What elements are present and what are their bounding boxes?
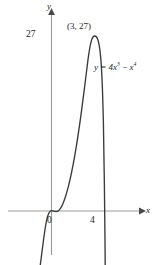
- x-axis-label: x: [146, 206, 150, 215]
- maximum-point-label: (3, 27): [67, 22, 91, 31]
- curve-equation-label: y = 4x3 − x4: [94, 62, 136, 72]
- graph-figure: y x 27 0 4 (3, 27) y = 4x3 − x4: [0, 0, 156, 265]
- graph-canvas: [0, 0, 156, 265]
- y-axis-label: y: [47, 2, 51, 11]
- x-tick-label-4: 4: [90, 216, 95, 226]
- x-axis-arrowhead: [139, 208, 146, 215]
- equation-lhs: y = 4: [94, 62, 113, 72]
- x-tick-label-0: 0: [47, 216, 52, 226]
- equation-exponent-2: 4: [133, 61, 136, 67]
- y-tick-label-27: 27: [26, 30, 36, 40]
